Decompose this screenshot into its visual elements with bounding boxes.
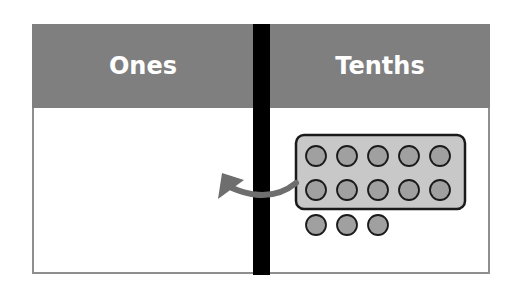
diagram-graphics [0, 0, 519, 306]
loose-counters [306, 215, 388, 235]
regroup-arrow-icon [218, 173, 296, 199]
